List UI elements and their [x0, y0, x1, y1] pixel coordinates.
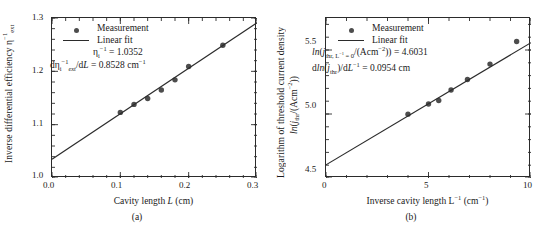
panel-a-legend-marker-icon	[74, 28, 79, 33]
panel-a: Inverse differential efficiency η−1ext 1…	[0, 0, 274, 232]
panel-a-legend-linear-fit-label: Linear fit	[97, 35, 133, 45]
panel-b-y-axis-label-line2: ln(jthr/(Acm−2))	[289, 55, 299, 155]
figure-container: Inverse differential efficiency η−1ext 1…	[0, 0, 548, 232]
panel-a-legend-line-icon	[63, 40, 89, 41]
panel-b-legend-line-icon	[338, 40, 364, 41]
panel-a-x-tick-0-2: 0.2	[179, 180, 190, 190]
panel-a-svg	[52, 18, 257, 178]
panel-b-legend-measurement-label: Measurement	[372, 23, 424, 33]
panel-a-x-tick-0-1: 0.1	[111, 180, 122, 190]
panel-b-legend-linear-fit-label: Linear fit	[372, 35, 408, 45]
panel-b: Logarithm of threshold current density l…	[274, 0, 548, 232]
panel-b-y-tick-4-5: 4.5	[305, 164, 316, 174]
panel-b-annotation-slope: dln(jthr)/dL−1 = 0.0954 cm	[312, 63, 410, 73]
panel-a-legend-measurement-label: Measurement	[97, 23, 149, 33]
panel-a-y-tick-1-2: 1.2	[32, 65, 43, 75]
panel-b-svg	[326, 18, 531, 178]
panel-a-annotation-slope: dηi−1ext/dL = 0.8528 cm−1	[50, 60, 146, 70]
panel-a-y-tick-1-1: 1.1	[32, 118, 43, 128]
panel-b-x-tick-0: 0	[322, 180, 327, 190]
panel-a-plot-area	[51, 17, 256, 177]
panel-b-x-axis-label: Inverse cavity length L−1 (cm−1)	[325, 196, 530, 206]
panel-b-legend-marker-icon	[349, 28, 354, 33]
panel-a-x-tick-0-3: 0.3	[247, 180, 258, 190]
panel-a-x-tick-0-0: 0.0	[43, 180, 54, 190]
panel-a-caption: (a)	[0, 212, 274, 222]
panel-b-x-tick-5: 5	[424, 180, 429, 190]
panel-b-y-axis-label-line1: Logarithm of threshold current density	[276, 10, 286, 195]
panel-b-annotation-intercept: ln(jthr, L−1 = 0/(Acm−2)) = 4.6031	[312, 47, 428, 57]
panel-a-x-axis-label: Cavity length L (cm)	[51, 196, 256, 206]
panel-a-y-tick-1-3: 1.3	[32, 12, 43, 22]
panel-b-x-tick-10: 10	[523, 180, 532, 190]
panel-b-y-tick-5-5: 5.5	[305, 36, 316, 46]
panel-b-y-tick-5-0: 5.0	[305, 100, 316, 110]
panel-a-y-tick-1-0: 1.0	[32, 170, 43, 180]
panel-a-y-axis-label: Inverse differential efficiency η−1ext	[4, 18, 14, 170]
panel-a-annotation-eta: ηi−1 = 1.0352	[93, 47, 143, 57]
panel-b-plot-area	[325, 17, 530, 177]
panel-b-caption: (b)	[274, 212, 548, 222]
